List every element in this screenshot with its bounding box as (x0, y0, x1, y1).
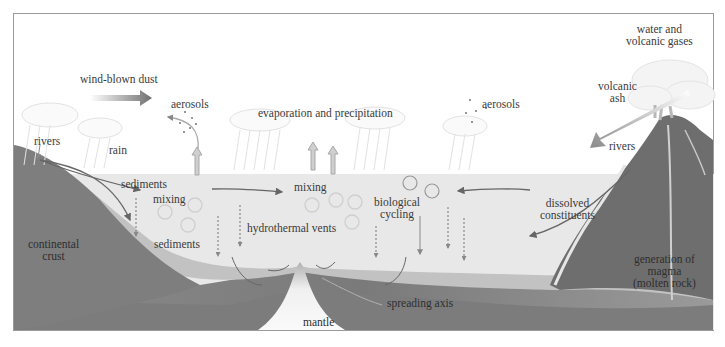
label-sediments-top: sediments (121, 178, 167, 190)
aerosol-arrow (168, 117, 198, 150)
label-line: magma (633, 265, 696, 277)
label-biological-cycling: biological cycling (374, 196, 420, 220)
label-mantle: mantle (303, 316, 334, 328)
label-volcanic-ash: volcanic ash (598, 80, 637, 104)
label-line: water and (626, 23, 693, 35)
label-evaporation-precipitation: evaporation and precipitation (258, 107, 393, 119)
label-line: ash (598, 92, 637, 104)
label-line: generation of (633, 253, 696, 265)
label-sediments-bottom: sediments (154, 238, 200, 250)
label-line: continental (28, 238, 79, 250)
label-dissolved-constituents: dissolved constituents (540, 197, 595, 221)
label-hydrothermal-vents: hydrothermal vents (247, 222, 336, 234)
label-line: cycling (374, 208, 420, 220)
label-wind-blown-dust: wind-blown dust (80, 73, 158, 85)
label-line: biological (374, 196, 420, 208)
label-mixing-center: mixing (294, 181, 327, 193)
label-mixing-left: mixing (153, 193, 186, 205)
wind-blown-dust-arrow (90, 90, 152, 106)
label-rivers-right: rivers (609, 140, 635, 152)
label-line: crust (28, 250, 79, 262)
ocean-chemistry-diagram: wind-blown dust aerosols evaporation and… (0, 0, 725, 347)
label-water-volcanic-gases: water and volcanic gases (626, 23, 693, 47)
diagram-artwork (0, 0, 725, 347)
label-line: dissolved (540, 197, 595, 209)
label-line: constituents (540, 209, 595, 221)
label-line: (molten rock) (633, 277, 696, 289)
label-rivers-left: rivers (34, 135, 60, 147)
label-rain: rain (109, 144, 127, 156)
label-aerosols-right: aerosols (482, 98, 520, 110)
label-aerosols-left: aerosols (171, 98, 209, 110)
label-continental-crust: continental crust (28, 238, 79, 262)
label-generation-of-magma: generation of magma (molten rock) (633, 253, 696, 289)
evaporation-arrows (192, 142, 338, 175)
label-spreading-axis: spreading axis (387, 297, 453, 309)
clouds (22, 103, 487, 138)
label-line: volcanic (598, 80, 637, 92)
label-line: volcanic gases (626, 35, 693, 47)
